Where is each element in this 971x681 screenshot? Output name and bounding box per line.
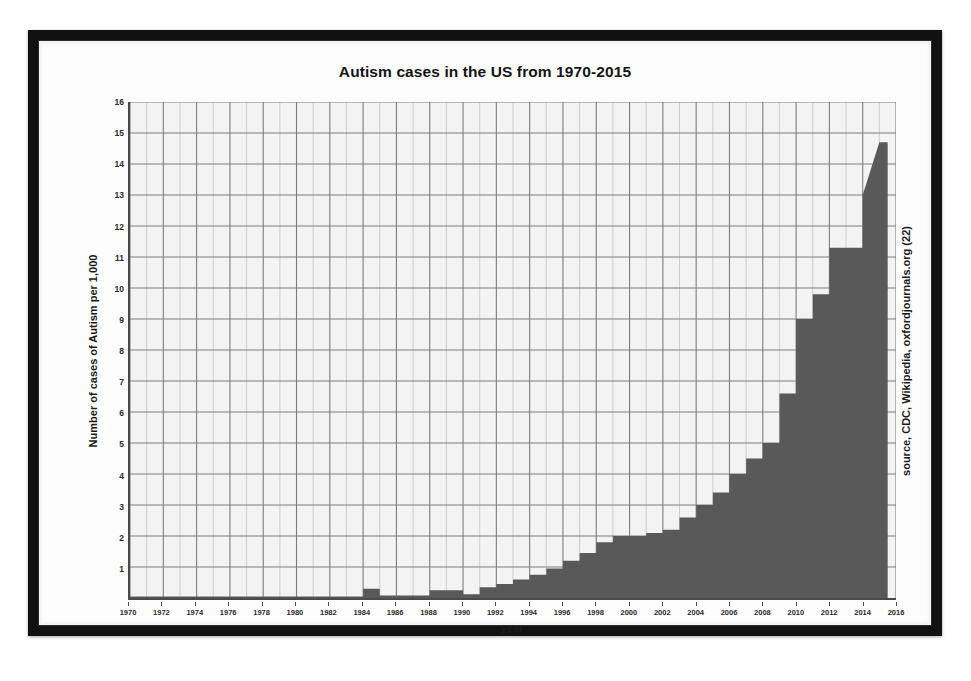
source-note-container: source, CDC, Wikipedia, oxfordjournals.o… — [895, 102, 917, 600]
y-axis-tick-label: 3 — [98, 502, 124, 511]
source-note: source, CDC, Wikipedia, oxfordjournals.o… — [900, 181, 912, 521]
x-axis-tick-mark — [562, 602, 563, 606]
chart-sheet: Autism cases in the US from 1970-2015 Nu… — [45, 47, 925, 619]
y-axis-tick-labels: 12345678910111213141516 — [94, 102, 124, 600]
y-axis-tick-label: 1 — [98, 565, 124, 574]
x-axis-tick-label: 2002 — [654, 609, 671, 617]
x-axis-tick-mark — [362, 602, 363, 606]
y-axis-tick-label: 6 — [98, 409, 124, 418]
x-axis-tick-label: 2010 — [787, 609, 804, 617]
x-axis-tick-label: 1992 — [487, 609, 504, 617]
y-axis-tick-label: 7 — [98, 378, 124, 387]
x-axis-tick-label: 2004 — [687, 609, 704, 617]
x-axis-tick-mark — [796, 602, 797, 606]
x-axis-tick-mark — [462, 602, 463, 606]
x-axis-tick-label: 1982 — [320, 609, 337, 617]
x-axis-tick-mark — [328, 602, 329, 606]
x-axis-tick-label: 1974 — [186, 609, 203, 617]
x-axis-tick-label: 1990 — [454, 609, 471, 617]
x-axis-tick-mark — [529, 602, 530, 606]
x-axis-tick-mark — [629, 602, 630, 606]
x-axis-title: year — [128, 622, 896, 634]
x-axis-tick-label: 1994 — [520, 609, 537, 617]
y-axis-tick-label: 2 — [98, 534, 124, 543]
x-axis-tick-mark — [762, 602, 763, 606]
y-axis-tick-label: 12 — [98, 222, 124, 231]
plot-area — [128, 102, 896, 600]
x-axis-tick-label: 2014 — [854, 609, 871, 617]
x-axis-tick-mark — [429, 602, 430, 606]
x-axis-tick-mark — [662, 602, 663, 606]
x-axis-tick-label: 2000 — [621, 609, 638, 617]
x-axis-tick-mark — [495, 602, 496, 606]
chart-page: Autism cases in the US from 1970-2015 Nu… — [0, 0, 971, 681]
x-axis-tick-label: 1988 — [420, 609, 437, 617]
x-axis-tick-mark — [195, 602, 196, 606]
y-axis-tick-label: 11 — [98, 253, 124, 262]
x-axis-tick-mark — [829, 602, 830, 606]
x-axis-tick-label: 1998 — [587, 609, 604, 617]
x-axis-tick-label: 2016 — [888, 609, 905, 617]
x-axis-tick-mark — [863, 602, 864, 606]
x-axis-tick-mark — [896, 602, 897, 606]
y-axis-tick-label: 10 — [98, 285, 124, 294]
x-axis-tick-mark — [729, 602, 730, 606]
x-axis-tick-label: 1978 — [253, 609, 270, 617]
x-axis-tick-label: 1970 — [120, 609, 137, 617]
x-axis-tick-mark — [395, 602, 396, 606]
picture-frame: Autism cases in the US from 1970-2015 Nu… — [28, 30, 942, 636]
x-axis-tick-mark — [262, 602, 263, 606]
y-axis-tick-label: 9 — [98, 316, 124, 325]
x-axis-tick-mark — [595, 602, 596, 606]
x-axis-tick-label: 1996 — [554, 609, 571, 617]
y-axis-tick-label: 4 — [98, 471, 124, 480]
x-axis-tick-label: 1976 — [220, 609, 237, 617]
y-axis-title-container: Number of cases of Autism per 1,000 — [71, 102, 91, 600]
x-axis-tick-mark — [161, 602, 162, 606]
x-axis-tick-labels: 1970197219741976197819801982198419861988… — [128, 602, 896, 624]
x-axis-tick-label: 1972 — [153, 609, 170, 617]
x-axis-tick-label: 2008 — [754, 609, 771, 617]
x-axis-tick-mark — [128, 602, 129, 606]
y-axis-tick-label: 14 — [98, 160, 124, 169]
x-axis-tick-label: 2006 — [721, 609, 738, 617]
y-axis-tick-label: 16 — [98, 98, 124, 107]
y-axis-tick-label: 13 — [98, 191, 124, 200]
x-axis-tick-label: 1980 — [287, 609, 304, 617]
area-series — [130, 102, 896, 598]
y-axis-tick-label: 5 — [98, 440, 124, 449]
x-axis-tick-mark — [696, 602, 697, 606]
y-axis-tick-label: 15 — [98, 129, 124, 138]
chart-title: Autism cases in the US from 1970-2015 — [45, 63, 925, 81]
x-axis-tick-label: 1986 — [387, 609, 404, 617]
x-axis-tick-mark — [228, 602, 229, 606]
y-axis-tick-label: 8 — [98, 347, 124, 356]
frame-inner-matte: Autism cases in the US from 1970-2015 Nu… — [39, 41, 931, 625]
x-axis-tick-label: 2012 — [821, 609, 838, 617]
x-axis-tick-mark — [295, 602, 296, 606]
x-axis-tick-label: 1984 — [353, 609, 370, 617]
